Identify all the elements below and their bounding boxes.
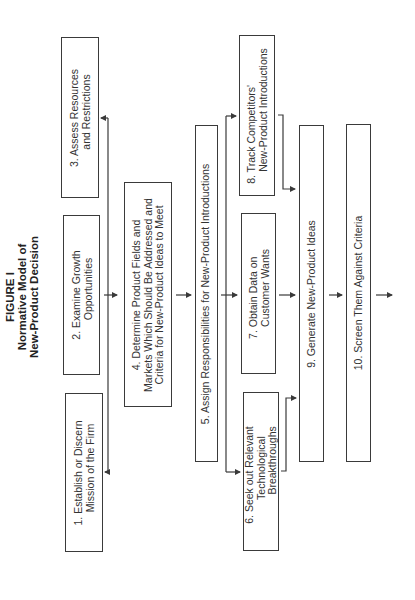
connector-lines bbox=[0, 0, 415, 600]
arrow-6-to-9 bbox=[281, 398, 296, 471]
arrow-8-to-9 bbox=[278, 115, 295, 189]
